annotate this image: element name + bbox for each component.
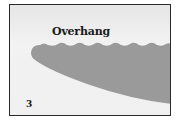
panel-number: 3 xyxy=(26,99,32,109)
figure-title: Overhang xyxy=(52,25,110,38)
diagram-panel: Overhang 3 xyxy=(9,4,171,116)
overhang-rock-shape xyxy=(10,5,171,116)
